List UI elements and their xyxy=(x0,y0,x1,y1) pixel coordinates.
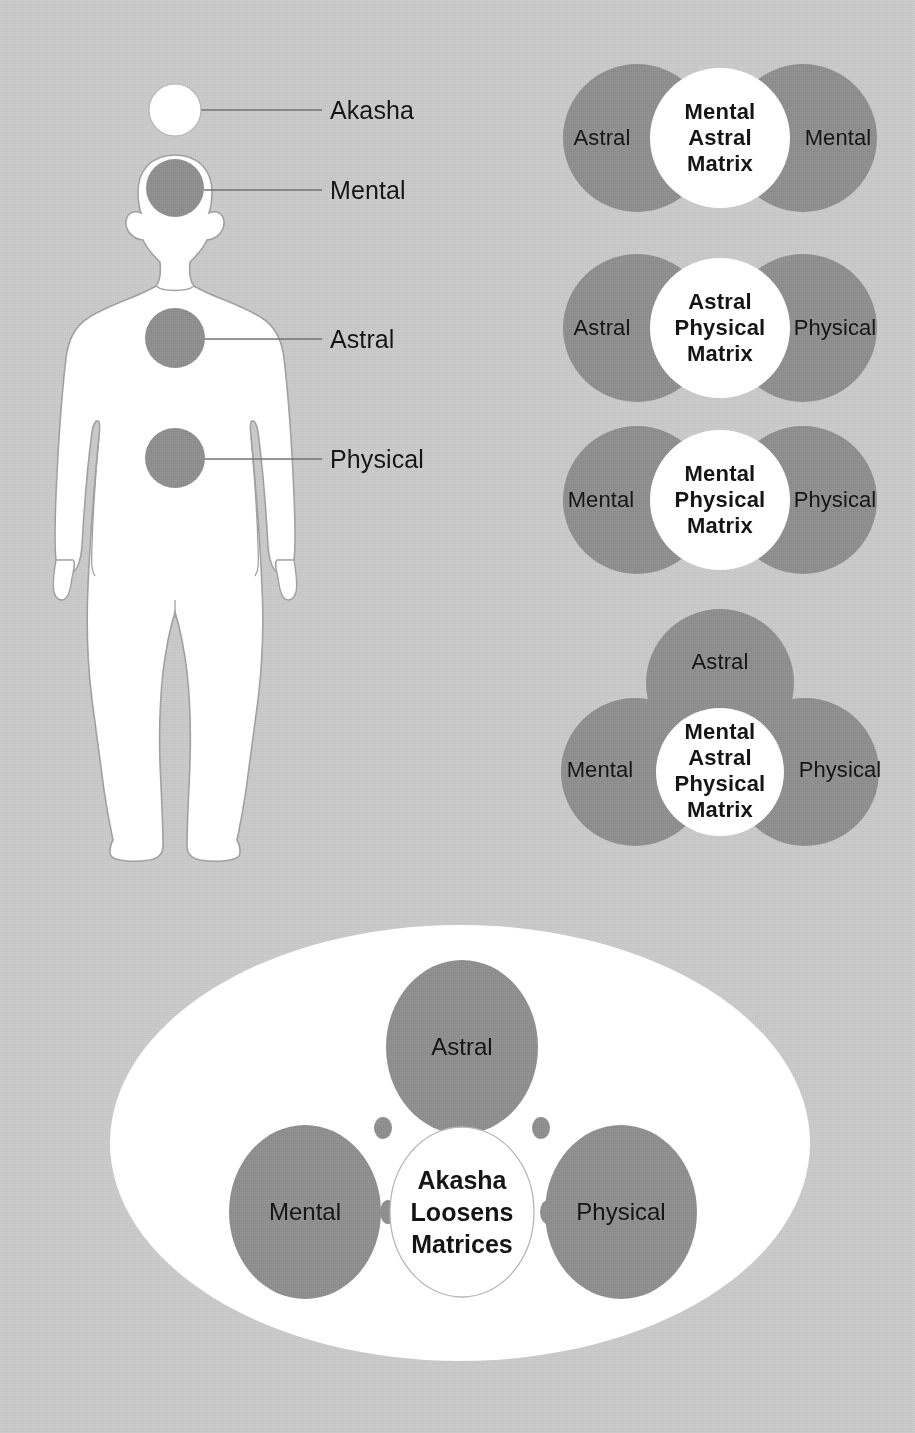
akasha-lobe-label-mental: Mental xyxy=(269,1198,341,1226)
akasha-lobe-label-astral: Astral xyxy=(431,1033,492,1061)
connector-dot-upper-left xyxy=(374,1117,392,1139)
akasha-core-label: Akasha Loosens Matrices xyxy=(411,1164,514,1260)
connector-dot-mid-right xyxy=(540,1200,556,1224)
akasha-core-line-3: Matrices xyxy=(411,1228,514,1260)
connector-dot-upper-right xyxy=(532,1117,550,1139)
akasha-lobe-label-physical: Physical xyxy=(576,1198,665,1226)
diagram-page: Akasha Mental Astral Physical xyxy=(0,0,915,1433)
akasha-core-line-1: Akasha xyxy=(411,1164,514,1196)
akasha-core-line-2: Loosens xyxy=(411,1196,514,1228)
